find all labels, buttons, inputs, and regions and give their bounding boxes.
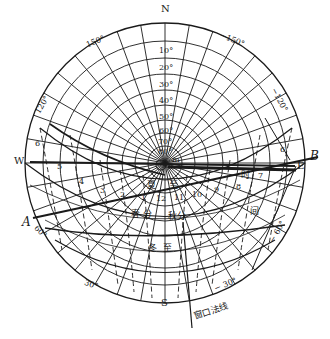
hour-label-6-west: 6 <box>35 140 40 148</box>
time-label-jian: 间 <box>250 207 259 216</box>
spring-equinox-label-2: 分 <box>143 210 152 219</box>
hour-label-6-east: 6 <box>280 146 285 154</box>
hour-label-9: 9 <box>214 186 219 194</box>
altitude-label-40: 40° <box>159 97 173 105</box>
hour-label-10: 10 <box>192 191 202 199</box>
line-m <box>168 167 296 170</box>
altitude-label-30: 30° <box>159 81 173 89</box>
hour-label-3: 3 <box>100 187 105 195</box>
hour-label-11: 11 <box>174 194 184 202</box>
line-label-a: A <box>22 216 31 228</box>
east-shading-diag <box>252 166 296 270</box>
autumn-equinox-label: 秋分 <box>168 212 186 221</box>
hour-label-12: 12 <box>156 195 166 203</box>
north-label: N <box>161 4 170 14</box>
hour-label-8: 8 <box>236 183 241 191</box>
east-label: E <box>297 161 304 171</box>
summer-solstice-label-1: 夏 <box>147 181 156 190</box>
altitude-label-50: 50° <box>159 113 173 121</box>
hour-label-2: 2 <box>120 191 125 199</box>
line-label-m: m <box>172 156 180 164</box>
winter-solstice-label-1: 冬 <box>148 244 157 253</box>
altitude-label-60: 60° <box>159 127 173 135</box>
spring-equinox-label-1: 春 <box>131 210 140 219</box>
overlay-lines <box>30 118 318 328</box>
altitude-label-20: 20° <box>159 64 173 72</box>
winter-solstice-label-2: 至 <box>163 244 172 253</box>
altitude-label-80: 80° <box>158 148 172 156</box>
west-label: W <box>14 156 24 166</box>
time-label-shi: 时 <box>241 171 250 180</box>
hour-label-1: 1 <box>141 194 146 202</box>
line-label-b: B <box>310 150 319 162</box>
hour-label-4: 4 <box>79 178 84 186</box>
south-label: S <box>161 298 168 308</box>
summer-solstice-label-2: 至 <box>169 181 178 190</box>
hour-label-7: 7 <box>258 172 263 180</box>
altitude-label-10: 10° <box>159 47 173 55</box>
east-upper-diag <box>265 118 290 160</box>
hour-label-5: 5 <box>57 163 62 171</box>
altitude-label-70: 70° <box>158 138 172 146</box>
